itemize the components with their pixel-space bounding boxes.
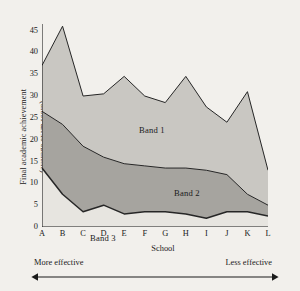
x-tick-G: G <box>158 230 172 238</box>
y-tick-15: 15 <box>22 158 38 166</box>
y-tick-35: 35 <box>22 70 38 78</box>
y-tick-45: 45 <box>22 27 38 35</box>
y-tick-20: 20 <box>22 136 38 144</box>
plot-area: Band 1 Band 2 Band 3 <box>42 24 268 227</box>
x-tick-A: A <box>35 230 49 238</box>
less-effective-label: Less effective <box>225 258 272 267</box>
y-tick-10: 10 <box>22 179 38 187</box>
y-tick-30: 30 <box>22 92 38 100</box>
x-tick-K: K <box>240 230 254 238</box>
x-tick-L: L <box>261 230 275 238</box>
x-tick-D: D <box>97 230 111 238</box>
double-arrow-icon <box>0 270 300 284</box>
band-1-label: Band 1 <box>139 125 165 135</box>
band-2-label: Band 2 <box>174 188 200 198</box>
y-tick-40: 40 <box>22 48 38 56</box>
x-axis-title-text: School <box>151 244 174 253</box>
x-tick-H: H <box>179 230 193 238</box>
y-tick-25: 25 <box>22 114 38 122</box>
x-tick-C: C <box>76 230 90 238</box>
x-tick-B: B <box>56 230 70 238</box>
more-effective-label: More effective <box>34 258 83 267</box>
x-tick-I: I <box>199 230 213 238</box>
y-tick-5: 5 <box>22 201 38 209</box>
x-axis-title: School <box>0 244 300 253</box>
effectiveness-scale: More effective Less effective <box>0 258 300 284</box>
x-tick-E: E <box>117 230 131 238</box>
chart-figure: Final academic achievement (average exam… <box>0 0 300 291</box>
x-tick-F: F <box>138 230 152 238</box>
x-tick-J: J <box>220 230 234 238</box>
x-axis-tick-labels: ABCDEFGHIJKL <box>0 230 300 242</box>
